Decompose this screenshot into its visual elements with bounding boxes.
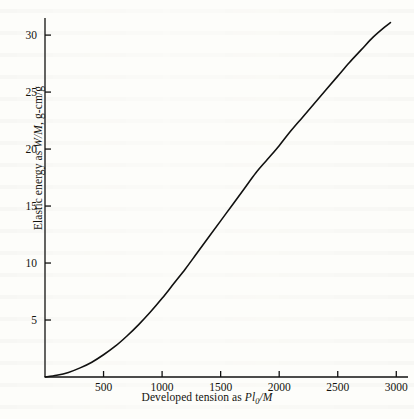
y-axis-label-symbol: W/M	[32, 125, 44, 148]
chart-canvas: 51015202530 50010001500200025003000	[0, 0, 414, 419]
x-axis-label-symbol-1: Pl	[245, 391, 255, 403]
x-axis-ticks: 50010001500200025003000	[95, 371, 408, 393]
x-axis-label-lead: Developed tension as	[142, 391, 245, 403]
x-axis-label: Developed tension as Pl0/M	[0, 391, 414, 406]
y-axis-label: Elastic energy as W/M, g-cm/g	[32, 38, 44, 278]
axis-lines	[45, 18, 408, 377]
figure-elastic-energy-vs-tension: 51015202530 50010001500200025003000 Elas…	[0, 0, 414, 419]
y-axis-label-lead: Elastic energy as	[32, 148, 44, 230]
series-elastic-energy	[45, 23, 390, 377]
y-tick-label-5: 5	[31, 314, 37, 326]
y-axis-label-tail: , g-cm/g	[32, 86, 44, 125]
x-axis-label-symbol-2: /M	[260, 391, 273, 403]
